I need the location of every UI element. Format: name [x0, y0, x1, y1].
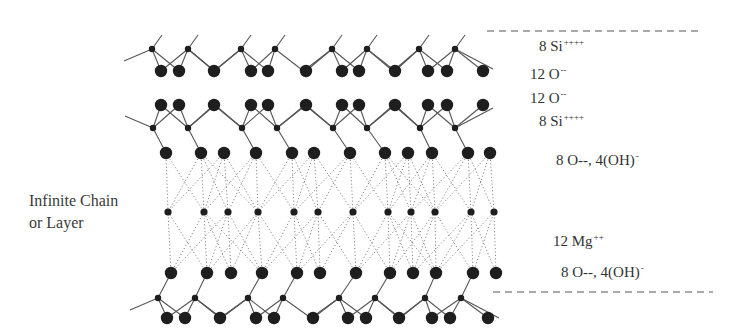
octahedral-bond [171, 212, 228, 273]
si-o-bond [277, 105, 305, 128]
magnesium-atom [254, 208, 261, 215]
oxygen-atom [389, 65, 401, 77]
oxygen-atom [195, 147, 207, 159]
silicon-atom [452, 46, 458, 52]
oxygen-atom [208, 65, 220, 77]
octahedral-bond [435, 212, 436, 273]
octahedral-bond [294, 153, 314, 212]
octahedral-bond [292, 153, 318, 212]
oxygen-atom [379, 147, 391, 159]
oxygen-atom [225, 267, 237, 279]
oxygen-atom [300, 99, 312, 111]
oxygen-atom [250, 312, 262, 324]
oxygen-atom [353, 65, 365, 77]
octahedral-bond [411, 153, 432, 212]
octahedral-bond [436, 212, 471, 273]
octahedral-bond [228, 212, 262, 273]
octahedral-bond [388, 153, 432, 212]
octahedral-bond [228, 153, 256, 212]
oxygen-atom [482, 312, 494, 324]
oxygen-atom [441, 99, 453, 111]
octahedral-bond [471, 212, 496, 273]
magnesium-atom [314, 208, 321, 215]
oxygen-atom [262, 65, 274, 77]
silicon-atom [417, 125, 423, 131]
oxygen-atom [360, 312, 372, 324]
oxygen-atom [490, 267, 502, 279]
octahedral-bond [256, 153, 294, 212]
si-o-bond [367, 105, 394, 128]
silicon-atom [245, 295, 251, 301]
octahedral-bond [258, 212, 262, 273]
label-formula: 8 O--, 4(OH) [556, 152, 635, 168]
octahedral-bond [385, 153, 435, 212]
oxygen-atom [218, 147, 230, 159]
octahedral-bond [262, 212, 318, 273]
octahedral-bond [388, 153, 408, 212]
magnesium-atom [290, 208, 297, 215]
octahedral-bond [388, 212, 390, 273]
octahedral-bond [350, 153, 353, 212]
oxygen-atom [350, 267, 362, 279]
oxygen-atom [314, 267, 326, 279]
octahedral-bond [262, 212, 294, 273]
si-o-bond [455, 108, 493, 128]
octahedral-bond [204, 212, 231, 273]
silicon-atom [336, 295, 342, 301]
side-label-line2: or Layer [29, 212, 118, 234]
octahedral-bond [204, 212, 262, 273]
silicon-atom [272, 46, 278, 52]
octahedral-bond [436, 212, 494, 273]
octahedral-bond [353, 153, 408, 212]
octahedral-bond [390, 212, 435, 273]
oxygen-atom [426, 147, 438, 159]
oxygen-atom [214, 312, 226, 324]
oxygen-atom [165, 267, 177, 279]
silicon-atom [329, 46, 335, 52]
magnesium-atom [349, 208, 356, 215]
si-o-bond [275, 49, 304, 71]
octahedral-bond [388, 212, 413, 273]
oxygen-atom [201, 267, 213, 279]
octahedral-bond [468, 153, 471, 212]
octahedral-dotted-bonds [166, 153, 496, 273]
oxygen-atom [336, 65, 348, 77]
silicon-atom [458, 295, 464, 301]
octahedral-bond [432, 153, 471, 212]
magnesium-atom [224, 208, 231, 215]
octahedral-bond [294, 212, 320, 273]
si-o-bond [125, 116, 153, 128]
label-formula: 8 O--, 4(OH) [561, 264, 640, 280]
label-oh-upper: 8 O--, 4(OH)- [556, 152, 639, 168]
octahedral-bond [473, 212, 494, 273]
label-charge: - [641, 263, 644, 273]
oxygen-atom [477, 65, 489, 77]
silicon-atom [372, 295, 378, 301]
label-oh-lower: 8 O--, 4(OH)- [561, 264, 644, 280]
oxygen-atom [407, 267, 419, 279]
oxygen-atom [155, 65, 167, 77]
octahedral-bond [411, 212, 436, 273]
oxygen-atom [342, 312, 354, 324]
oxygen-atom [208, 99, 220, 111]
silicon-atom [185, 125, 191, 131]
oxygen-atom [441, 65, 453, 77]
octahedral-bond [204, 212, 207, 273]
oxygen-atom [344, 147, 356, 159]
label-formula: 12 O [530, 66, 560, 82]
silicon-atom [239, 125, 245, 131]
silicate-layer-diagram [0, 0, 733, 336]
silicon-atom [364, 46, 370, 52]
atoms [149, 46, 502, 324]
magnesium-atom [490, 208, 497, 215]
silicon-atom [155, 295, 161, 301]
label-charge: ++++ [564, 37, 584, 47]
silicon-atom [238, 46, 244, 52]
octahedral-bond [318, 212, 320, 273]
octahedral-bond [350, 153, 388, 212]
oxygen-atom [430, 267, 442, 279]
silicon-atom [149, 46, 155, 52]
label-charge: - [636, 151, 639, 161]
oxygen-atom [426, 312, 438, 324]
octahedral-bond [166, 153, 204, 212]
